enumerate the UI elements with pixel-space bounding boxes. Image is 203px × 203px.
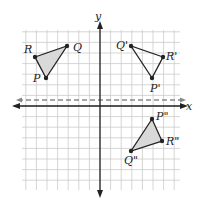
vertex-label: P': [149, 82, 160, 95]
triangle-pqr: P'Q'R': [116, 39, 177, 95]
vertex-label: P: [32, 72, 41, 85]
arrow-down-icon: [97, 190, 103, 198]
vertex-point: [129, 44, 133, 48]
arrow-left-icon: [12, 103, 20, 109]
vertex-point: [44, 76, 48, 80]
triangle-pqr: PQR: [23, 41, 82, 85]
triangles: PQRP'Q'R'P"Q"R": [23, 39, 179, 167]
coordinate-plane-figure: PQRP'Q'R'P"Q"R" x y: [0, 0, 203, 203]
vertex-label: P": [155, 110, 168, 123]
vertex-label: R": [165, 135, 179, 148]
vertex-label: R: [23, 43, 32, 56]
vertex-point: [150, 76, 154, 80]
vertex-point: [129, 149, 133, 153]
vertex-point: [65, 44, 69, 48]
triangle-pqr: P"Q"R": [124, 110, 179, 167]
vertex-label: R': [165, 50, 177, 63]
vertex-point: [160, 139, 164, 143]
vertex-point: [33, 55, 37, 59]
y-axis-label: y: [94, 10, 102, 23]
triangle-shape: [131, 119, 162, 151]
vertex-point: [161, 55, 165, 59]
x-axis-label: x: [186, 100, 193, 113]
vertex-label: Q: [73, 41, 82, 54]
arrow-left-icon: [16, 98, 22, 103]
triangle-shape: [131, 46, 163, 78]
vertex-point: [150, 117, 154, 121]
dashed-reflection-line: [16, 98, 186, 103]
vertex-label: Q": [124, 154, 138, 167]
vertex-label: Q': [116, 39, 128, 52]
